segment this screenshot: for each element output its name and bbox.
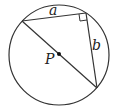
label-b: b: [92, 37, 101, 53]
label-p: P: [44, 51, 55, 67]
circle-triangle-diagram: a b P: [0, 0, 118, 112]
center-point-dot: [57, 52, 61, 56]
label-a: a: [49, 2, 57, 18]
